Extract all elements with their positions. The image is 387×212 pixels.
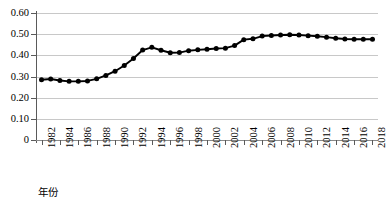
data-point [48, 77, 53, 82]
data-point [232, 43, 237, 48]
data-point [214, 46, 219, 51]
data-point [342, 37, 347, 42]
data-point [306, 33, 311, 38]
data-point [250, 36, 255, 41]
data-point [122, 63, 127, 68]
data-point [333, 36, 338, 41]
data-point [94, 76, 99, 81]
data-point [140, 48, 145, 53]
series-markers [39, 32, 375, 84]
data-point [205, 47, 210, 52]
data-point [186, 48, 191, 53]
data-point [361, 37, 366, 42]
data-point [296, 33, 301, 38]
data-point [76, 79, 81, 84]
data-point [39, 77, 44, 82]
data-point [113, 69, 118, 74]
data-point [177, 50, 182, 55]
data-point [315, 34, 320, 39]
data-point [195, 47, 200, 52]
data-point [67, 79, 72, 84]
data-point [57, 78, 62, 83]
data-point [168, 50, 173, 55]
data-point [241, 37, 246, 42]
data-point [85, 78, 90, 83]
data-point [278, 33, 283, 38]
data-point [103, 73, 108, 78]
data-point [223, 46, 228, 51]
data-point [352, 37, 357, 42]
data-point [370, 37, 375, 42]
data-point [324, 35, 329, 40]
data-point [260, 34, 265, 39]
data-point [269, 33, 274, 38]
data-point [159, 48, 164, 53]
data-point [149, 45, 154, 50]
data-point [287, 32, 292, 37]
series-line [42, 35, 373, 82]
data-point [131, 56, 136, 61]
